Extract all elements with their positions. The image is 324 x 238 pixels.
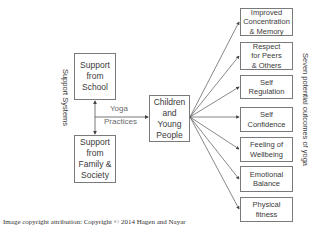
- outcome-label: Physical fitness: [253, 200, 281, 219]
- copyright-attribution: Image copyright attribution: Copyright ©…: [3, 218, 186, 226]
- yoga-practices-label: Yoga Practices: [100, 104, 146, 127]
- edge-label-line1: Yoga: [100, 104, 146, 114]
- outcome-emotional-balance: Emotional Balance: [240, 166, 293, 192]
- support-from-family-label: Support from Family & Society: [78, 137, 111, 181]
- children-young-people-box: Children and Young People: [149, 95, 190, 142]
- outcomes-label: Seven potential outcomes of yoga: [301, 45, 310, 175]
- outcome-self-confidence: Self Confidence: [240, 107, 293, 132]
- support-systems-label: Support Systems: [61, 66, 70, 130]
- outcome-concentration-memory: Improved Concentration & Memory: [240, 8, 293, 36]
- outcome-label: Self Confidence: [248, 110, 286, 129]
- outcome-physical-fitness: Physical fitness: [240, 197, 293, 222]
- outcome-feeling-wellbeing: Feeling of Wellbeing: [240, 137, 293, 162]
- edge-label-line2: Practices: [100, 117, 146, 127]
- support-from-family-box: Support from Family & Society: [74, 135, 116, 183]
- outcome-label: Improved Concentration & Memory: [243, 8, 290, 37]
- support-from-school-label: Support from School: [80, 60, 110, 93]
- outcome-label: Feeling of Wellbeing: [250, 140, 283, 159]
- outcome-label: Respect for Peers & Others: [251, 42, 281, 71]
- outcome-self-regulation: Self Regulation: [240, 75, 293, 99]
- outcome-label: Self Regulation: [249, 78, 285, 97]
- support-from-school-box: Support from School: [74, 53, 116, 100]
- outcome-label: Emotional Balance: [250, 170, 283, 189]
- children-young-people-label: Children and Young People: [154, 97, 186, 141]
- outcome-respect-peers: Respect for Peers & Others: [240, 42, 293, 70]
